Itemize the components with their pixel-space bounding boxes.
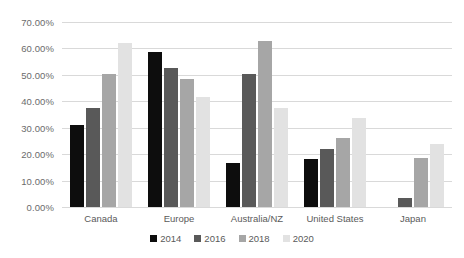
x-axis-tick-label: Canada (62, 209, 140, 229)
bar (180, 79, 194, 207)
bar (226, 163, 240, 207)
bar (320, 149, 334, 207)
bar (118, 43, 132, 207)
chart-legend: 2014201620182020 (0, 233, 464, 244)
bar (196, 97, 210, 207)
legend-item[interactable]: 2016 (194, 233, 225, 244)
x-axis-tick-label: United States (296, 209, 374, 229)
bar (336, 138, 350, 207)
legend-swatch-icon (239, 235, 246, 242)
bar-group (140, 22, 218, 207)
bar (164, 68, 178, 207)
y-axis-tick-label: 70.00% (21, 17, 54, 28)
legend-item-label: 2014 (160, 233, 181, 244)
legend-item-label: 2018 (249, 233, 270, 244)
y-axis-tick-label: 10.00% (21, 175, 54, 186)
y-axis-tick-label: 30.00% (21, 122, 54, 133)
bar-group (374, 22, 452, 207)
bar (398, 198, 412, 207)
y-axis-tick-label: 20.00% (21, 149, 54, 160)
bar (258, 41, 272, 208)
legend-swatch-icon (194, 235, 201, 242)
y-axis-tick-label: 40.00% (21, 96, 54, 107)
bar (86, 108, 100, 207)
legend-swatch-icon (150, 235, 157, 242)
legend-item[interactable]: 2020 (283, 233, 314, 244)
x-axis-tick-label: Japan (374, 209, 452, 229)
y-axis-tick-label: 0.00% (27, 202, 54, 213)
bar-chart: 0.00%10.00%20.00%30.00%40.00%50.00%60.00… (0, 0, 464, 258)
bar-group (218, 22, 296, 207)
x-axis-tick-label: Europe (140, 209, 218, 229)
legend-item[interactable]: 2014 (150, 233, 181, 244)
legend-swatch-icon (283, 235, 290, 242)
bar (352, 118, 366, 207)
legend-item[interactable]: 2018 (239, 233, 270, 244)
bar (414, 158, 428, 207)
x-axis-labels: CanadaEuropeAustralia/NZUnited StatesJap… (62, 209, 452, 229)
bar (148, 52, 162, 207)
legend-item-label: 2020 (293, 233, 314, 244)
gridline (62, 207, 452, 208)
bar (304, 159, 318, 207)
bar (430, 144, 444, 207)
x-axis-tick-label: Australia/NZ (218, 209, 296, 229)
bar (102, 74, 116, 207)
y-axis-tick-label: 60.00% (21, 43, 54, 54)
bar (274, 108, 288, 207)
bar-group (62, 22, 140, 207)
bar (242, 74, 256, 207)
y-axis-tick-label: 50.00% (21, 69, 54, 80)
legend-item-label: 2016 (204, 233, 225, 244)
bar-groups (62, 22, 452, 207)
bar-group (296, 22, 374, 207)
bar (70, 125, 84, 207)
y-axis: 0.00%10.00%20.00%30.00%40.00%50.00%60.00… (0, 22, 62, 207)
